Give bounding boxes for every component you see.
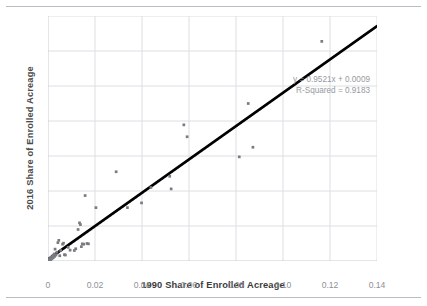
x-tick-label: 0.14 [357, 280, 397, 290]
data-point [186, 135, 189, 138]
x-tick-label: 0.04 [122, 280, 162, 290]
data-point [182, 124, 185, 127]
data-point [238, 156, 241, 159]
data-point [55, 254, 58, 257]
x-tick-label: 0.10 [263, 280, 303, 290]
data-point [67, 246, 70, 249]
data-point [58, 254, 61, 257]
data-point [320, 40, 323, 43]
data-point [80, 245, 83, 248]
x-tick-label: 0.06 [169, 280, 209, 290]
linear-trendline [48, 26, 377, 259]
data-point [140, 202, 143, 205]
data-point [115, 170, 118, 173]
plot-svg-canvas [48, 16, 377, 261]
x-tick-label: 0.12 [310, 280, 350, 290]
data-point [62, 242, 65, 245]
data-point [79, 223, 82, 226]
r-squared-text: R-Squared = 0.9183 [293, 85, 370, 96]
data-point [59, 249, 62, 252]
data-point [74, 247, 77, 250]
data-point [168, 175, 171, 178]
data-point [54, 248, 57, 251]
data-point [64, 254, 67, 257]
x-tick-label: 0 [28, 280, 68, 290]
data-point [84, 194, 87, 197]
x-tick-label: 0.02 [75, 280, 115, 290]
data-point [170, 188, 173, 191]
data-point [150, 186, 153, 189]
vertical-gridlines [95, 16, 377, 261]
data-point [57, 239, 60, 242]
data-point [247, 102, 250, 105]
chart-figure: 2016 Share of Enrolled Acreage 1990 Shar… [0, 0, 427, 306]
bottom-divider-rule [6, 297, 421, 298]
x-tick-label: 0.08 [216, 280, 256, 290]
scatter-plot-area: 00.020.040.060.080.100.120.14 00.020.040… [48, 16, 377, 261]
horizontal-gridlines [48, 16, 377, 226]
data-point-markers [48, 40, 323, 261]
regression-annotation: y = 0.9521x + 0.0009 R-Squared = 0.9183 [293, 74, 370, 96]
data-point [82, 243, 85, 246]
data-point [56, 251, 59, 254]
data-point [87, 243, 90, 246]
equation-text: y = 0.9521x + 0.0009 [293, 74, 370, 85]
top-divider-rule [6, 6, 421, 7]
y-axis-title: 2016 Share of Enrolled Acreage [25, 13, 35, 263]
data-point [126, 206, 129, 209]
data-point [69, 249, 72, 252]
data-point [77, 228, 80, 231]
data-point [95, 206, 98, 209]
data-point [252, 146, 255, 149]
